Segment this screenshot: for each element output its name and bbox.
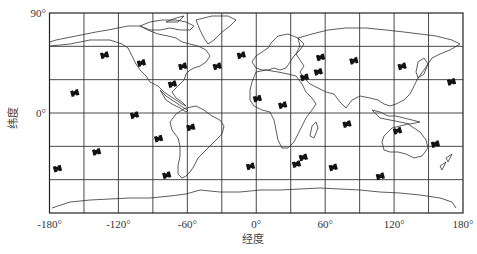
x-tick-label: 120° bbox=[384, 218, 405, 230]
satellite-icon bbox=[329, 163, 338, 171]
y-axis-label: 纬度 bbox=[6, 107, 20, 129]
y-tick-label: 90° bbox=[31, 7, 46, 19]
satellite-icon bbox=[154, 135, 163, 143]
madagascar-outline bbox=[310, 122, 318, 138]
lat-lon-grid bbox=[50, 13, 464, 213]
satellite-icon bbox=[342, 120, 351, 128]
satellite-icon bbox=[168, 80, 177, 88]
europe-outline bbox=[252, 34, 304, 70]
satellite-icon bbox=[397, 62, 406, 70]
satellite-icon bbox=[300, 73, 309, 81]
satellite-icon bbox=[299, 153, 308, 161]
satellite-icon bbox=[253, 95, 262, 103]
satellite-icon bbox=[130, 111, 139, 119]
japan-outline bbox=[416, 58, 428, 78]
satellite-icon bbox=[237, 51, 246, 59]
satellite-icon bbox=[316, 53, 325, 61]
x-tick-label: -60° bbox=[178, 218, 197, 230]
new-zealand-outline bbox=[440, 154, 452, 170]
world-map-chart: -180°-120°-60°0°60°120°180° 90°0° 经度 纬度 bbox=[0, 0, 477, 254]
africa-outline bbox=[250, 70, 316, 148]
satellite-icon bbox=[278, 101, 287, 109]
satellite-icon bbox=[431, 140, 440, 148]
indonesia-outline bbox=[372, 110, 420, 124]
x-tick-label: 0° bbox=[251, 218, 261, 230]
x-tick-label: -120° bbox=[106, 218, 131, 230]
y-tick-label: 0° bbox=[36, 107, 46, 119]
x-axis-ticks: -180°-120°-60°0°60°120°180° bbox=[37, 218, 473, 230]
satellite-icon bbox=[349, 57, 358, 65]
satellite-icon bbox=[70, 89, 79, 97]
satellite-icon bbox=[292, 160, 301, 168]
satellite-icon bbox=[246, 162, 255, 170]
satellite-icon bbox=[53, 165, 62, 173]
australia-outline bbox=[382, 124, 428, 158]
x-axis-label: 经度 bbox=[242, 232, 264, 246]
x-tick-label: 180° bbox=[453, 218, 474, 230]
greenland-outline bbox=[196, 16, 236, 44]
south-america-outline bbox=[170, 106, 224, 178]
y-axis-ticks: 90°0° bbox=[31, 7, 46, 119]
asia-outline bbox=[296, 28, 460, 108]
satellite-icon bbox=[178, 62, 187, 70]
satellite-icon bbox=[162, 171, 171, 179]
x-tick-label: 60° bbox=[317, 218, 332, 230]
arctic-islands-outline bbox=[140, 16, 194, 30]
satellite-icon bbox=[376, 172, 385, 180]
satellite-icon bbox=[213, 62, 222, 70]
x-tick-label: -180° bbox=[37, 218, 62, 230]
satellite-icon bbox=[314, 68, 323, 76]
satellite-icon bbox=[100, 51, 109, 59]
satellite-icon bbox=[92, 148, 101, 156]
satellite-icon bbox=[447, 78, 456, 86]
satellite-icon bbox=[137, 59, 146, 67]
antarctica-outline bbox=[52, 188, 456, 208]
continent-outlines bbox=[50, 16, 460, 208]
